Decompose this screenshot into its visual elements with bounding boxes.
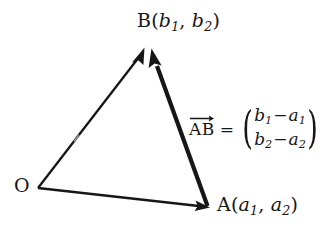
column-vector: ( b1−a1 b2−a2 ): [239, 105, 321, 152]
point-b-close-paren: ): [212, 9, 220, 31]
vector-ab-name-with-arrow: AB: [189, 114, 215, 138]
over-arrow-icon: [189, 114, 215, 122]
vector-row-1: b1−a1: [254, 105, 306, 127]
point-a-close-paren: ): [290, 193, 298, 215]
row1-operator: −: [272, 105, 288, 125]
point-label-a: A(a1, a2): [217, 195, 298, 217]
row1-term2: a: [288, 105, 298, 125]
vector-diagram-figure: B(b1, b2) A(a1, a2) O AB = ( b1−a1 b2−a2…: [0, 0, 331, 232]
arrowhead-b-from-a-icon: [149, 49, 162, 69]
vector-oa: [38, 188, 210, 211]
point-b-var2: b: [192, 9, 204, 31]
row2-term2: a: [288, 129, 298, 149]
vector-ab-name-text: AB: [189, 119, 215, 139]
point-a-var2: a: [271, 193, 283, 215]
point-a-var1: a: [239, 193, 251, 215]
point-a-letter: A: [217, 193, 231, 215]
point-b-letter: B: [137, 9, 151, 31]
row1-term1: b: [254, 105, 265, 125]
vector-ob: [38, 48, 145, 189]
row2-sub2: 2: [299, 139, 306, 152]
point-a-comma: ,: [258, 193, 270, 215]
vector-bracket-left: (: [242, 110, 253, 146]
vector-ab-equation: AB = ( b1−a1 b2−a2 ): [189, 103, 321, 150]
row2-operator: −: [272, 129, 288, 149]
vector-rows: b1−a1 b2−a2: [253, 105, 307, 152]
vector-row-2: b2−a2: [254, 129, 306, 151]
equals-sign: =: [219, 121, 235, 138]
point-label-o: O: [14, 176, 30, 195]
vector-bracket-right: ): [307, 110, 318, 146]
row2-term1: b: [254, 129, 265, 149]
point-b-open-paren: (: [151, 9, 159, 31]
point-label-b: B(b1, b2): [137, 11, 220, 33]
point-b-comma: ,: [179, 9, 191, 31]
row1-sub2: 1: [299, 114, 306, 127]
point-a-open-paren: (: [231, 193, 239, 215]
point-b-var1: b: [159, 9, 171, 31]
